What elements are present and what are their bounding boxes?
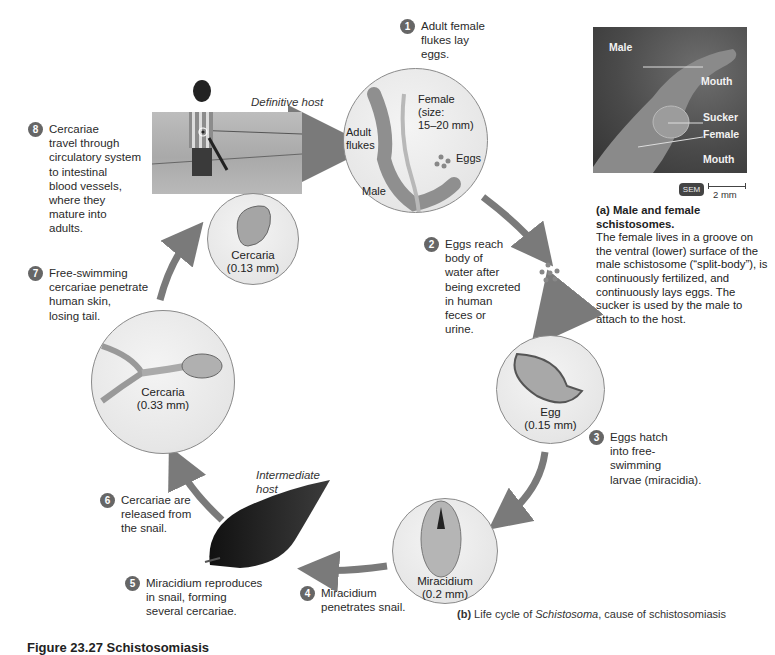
sem-label-sucker: Sucker: [703, 111, 738, 123]
step-number-badge: 6: [100, 493, 115, 508]
cercaria-large-circle: Cercaria (0.33 mm): [91, 310, 235, 454]
sem-label-mouth-top: Mouth: [701, 75, 733, 87]
label-female: Female (size: 15–20 mm): [418, 93, 474, 132]
definitive-host-label: Definitive host: [251, 95, 323, 109]
miracidium-circle: Miracidium (0.2 mm): [392, 498, 498, 604]
fisherman-head: [193, 80, 211, 102]
scale-bar-tick-left: [708, 183, 709, 189]
egg-circle-label: Egg (0.15 mm): [497, 406, 604, 432]
step-number-badge: 3: [589, 430, 604, 445]
step-number-badge: 4: [300, 586, 315, 601]
step-number-badge: 5: [125, 576, 140, 591]
step-text: Adult female flukes lay eggs.: [421, 19, 485, 62]
arrow-egg-to-miracidium: [505, 452, 545, 517]
step-text: Free-swimming cercariae penetrate human …: [49, 266, 148, 323]
step-text: Eggs hatch into free- swimming larvae (m…: [610, 430, 701, 487]
cercaria-large-label: Cercaria (0.33 mm): [92, 386, 234, 412]
step-2: 2 Eggs reach body of water after being e…: [424, 237, 520, 336]
step-1: 1 Adult female flukes lay eggs.: [400, 19, 485, 62]
figure-title: Figure 23.27 Schistosomiasis: [27, 640, 209, 655]
step-4: 4 Miracidium penetrates snail.: [300, 586, 405, 614]
sem-label-female: Female: [703, 128, 739, 140]
sem-label-mouth-bottom: Mouth: [703, 153, 735, 165]
step-6: 6 Cercariae are released from the snail.: [100, 493, 191, 536]
miracidium-circle-label: Miracidium (0.2 mm): [393, 575, 497, 601]
definitive-host-photo: [152, 112, 302, 194]
panel-b-caption-genus: Schistosoma: [535, 608, 598, 620]
step-text: Miracidium penetrates snail.: [321, 586, 405, 614]
label-male: Male: [362, 185, 386, 198]
step-number-badge: 7: [28, 266, 43, 281]
sem-badge: SEM: [679, 183, 704, 196]
eggs-cluster-icon: [538, 262, 562, 286]
step-3: 3 Eggs hatch into free- swimming larvae …: [589, 430, 701, 487]
step-text: Eggs reach body of water after being exc…: [445, 237, 520, 336]
step-number-badge: 2: [424, 237, 439, 252]
arrow-eggs-to-egg-circle: [553, 290, 560, 320]
sem-label-male: Male: [609, 41, 632, 53]
panel-b-caption-suffix: , cause of schistosomiasis: [598, 608, 726, 620]
label-eggs: Eggs: [456, 152, 481, 165]
intermediate-host-label: Intermediate host: [256, 468, 320, 496]
panel-a-caption: (a) Male and female schistosomes. The fe…: [596, 204, 771, 326]
cercaria-small-circle: Cercaria (0.13 mm): [207, 193, 299, 285]
scale-bar: [708, 186, 745, 187]
panel-b-caption-prefix: (b): [457, 608, 471, 620]
cercaria-small-label: Cercaria (0.13 mm): [208, 249, 298, 275]
cercaria-tailed-illustration: [92, 311, 234, 453]
fisherman-silhouette-icon: [152, 112, 302, 194]
sem-micrograph: Male Mouth Sucker Female Mouth: [593, 27, 747, 173]
label-adult-flukes: Adult flukes: [346, 126, 375, 152]
panel-b-caption: (b) Life cycle of Schistosoma, cause of …: [457, 608, 726, 620]
arrow-cercaria-to-skin: [160, 238, 190, 300]
panel-b-caption-text: Life cycle of: [471, 608, 535, 620]
step-number-badge: 1: [400, 19, 415, 34]
egg-circle: Egg (0.15 mm): [496, 335, 605, 444]
scale-bar-label: 2 mm: [713, 189, 737, 200]
panel-a-caption-body: The female lives in a groove on the vent…: [596, 231, 767, 325]
step-text: Cercariae are released from the snail.: [121, 493, 191, 536]
scale-bar-tick-right: [745, 183, 746, 189]
step-8: 8 Cercariae travel through circulatory s…: [28, 122, 141, 236]
step-5: 5 Miracidium reproduces in snail, formin…: [125, 576, 262, 619]
step-7: 7 Free-swimming cercariae penetrate huma…: [28, 266, 148, 323]
step-text: Cercariae travel through circulatory sys…: [49, 122, 141, 236]
step-number-badge: 8: [28, 122, 43, 137]
step-text: Miracidium reproduces in snail, forming …: [146, 576, 262, 619]
panel-a-caption-title: (a) Male and female schistosomes.: [596, 204, 771, 231]
